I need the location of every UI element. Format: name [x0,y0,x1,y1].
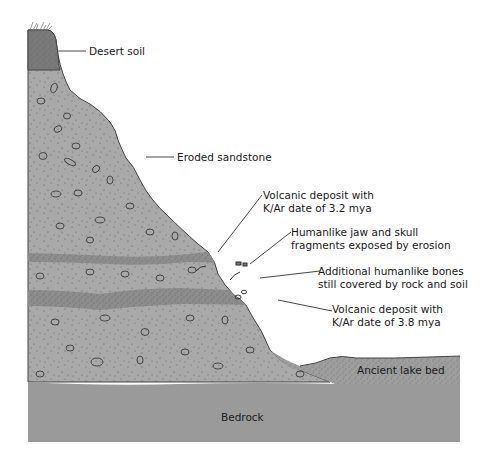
label-lake-bed: Ancient lake bed [357,364,445,376]
label-buried-fossils-line2: still covered by rock and soil [318,278,468,290]
label-bedrock: Bedrock [221,411,265,423]
label-volcanic-lower-line1: Volcanic deposit with [332,303,443,315]
desert-soil-layer [28,22,60,70]
grass-icon [30,22,52,30]
label-exposed-fossils-line2: fragments exposed by erosion [291,239,451,251]
label-volcanic-upper-line2: K/Ar date of 3.2 mya [263,202,372,214]
label-buried-fossils-line1: Additional humanlike bones [318,265,464,277]
label-desert-soil: Desert soil [89,45,145,57]
stratigraphy-diagram: Desert soil Eroded sandstone Volcanic de… [0,0,485,469]
label-exposed-fossils-line1: Humanlike jaw and skull [291,226,418,238]
label-volcanic-upper-line1: Volcanic deposit with [263,189,374,201]
label-volcanic-lower-line2: K/Ar date of 3.8 mya [332,316,441,328]
label-eroded-sandstone: Eroded sandstone [177,151,272,163]
